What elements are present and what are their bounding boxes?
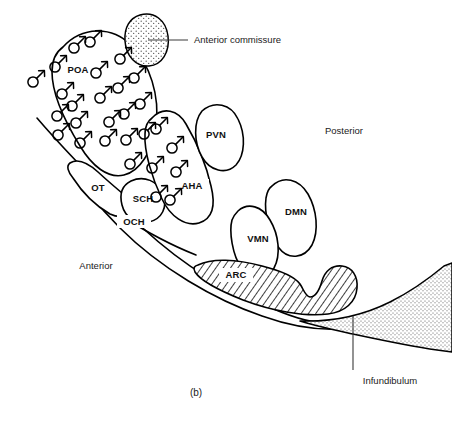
pvn-label: PVN bbox=[206, 129, 226, 140]
dmn-label: DMN bbox=[285, 206, 307, 217]
nucleus-arc[interactable]: ARC bbox=[194, 260, 357, 315]
posterior-label: Posterior bbox=[325, 125, 363, 136]
aha-label: AHA bbox=[181, 180, 202, 191]
ot-label: OT bbox=[91, 182, 105, 193]
hypothalamus-figure: OT POA SCH AHA PVN DMN bbox=[0, 0, 452, 424]
anterior-commissure-group[interactable]: Anterior commissure bbox=[125, 14, 281, 66]
hypothalamus-diagram-canvas: OT POA SCH AHA PVN DMN bbox=[0, 0, 452, 424]
vmn-label: VMN bbox=[247, 233, 269, 244]
poa-label: POA bbox=[67, 64, 88, 75]
arc-label: ARC bbox=[225, 269, 246, 280]
panel-label: (b) bbox=[190, 387, 202, 398]
label-och[interactable]: OCH bbox=[117, 215, 151, 228]
mars-symbol bbox=[28, 71, 45, 88]
arc-hatched-shape bbox=[194, 260, 357, 315]
anterior-label: Anterior bbox=[79, 260, 112, 271]
infundibulum-label: Infundibulum bbox=[363, 375, 417, 386]
och-label: OCH bbox=[123, 216, 145, 227]
anterior-commissure-label: Anterior commissure bbox=[194, 34, 281, 45]
sch-label: SCH bbox=[133, 193, 154, 204]
